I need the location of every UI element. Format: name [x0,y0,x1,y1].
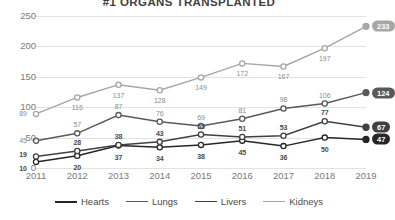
x-axis-tick-label: 2017 [273,170,294,181]
x-axis-tick-label: 2015 [190,170,211,181]
x-axis-tick-label: 2016 [232,170,253,181]
data-point-label: 51 [238,125,246,132]
y-axis-tick-label: 150 [6,71,36,82]
data-point-label: 76 [156,110,164,117]
data-point-label: 45 [238,149,246,156]
y-axis-tick-label: 250 [6,10,36,21]
data-point-label: 69 [197,114,205,121]
legend-swatch-lungs [126,201,148,202]
legend-item-hearts[interactable]: Hearts [55,196,109,207]
legend-item-livers[interactable]: Livers [195,196,246,207]
series-lines [36,16,366,168]
data-point-label: 116 [72,104,83,111]
chart-title: #1 ORGANS TRANSPLANTED [0,0,378,8]
data-point-label: 81 [238,107,246,114]
data-point [75,131,80,136]
data-point [363,124,369,130]
legend-swatch-livers [195,201,217,202]
data-point-label: 172 [237,70,248,77]
legend-swatch-kidneys [263,201,285,202]
legend-label: Lungs [152,196,178,207]
data-point [157,119,162,124]
data-point-label: 28 [73,139,81,146]
data-point [322,46,327,51]
x-axis-tick-label: 2018 [314,170,335,181]
y-axis-tick-label: 200 [6,40,36,51]
data-point-label: 57 [73,121,81,128]
data-point-label: 167 [278,73,289,80]
data-point-label: 87 [115,103,123,110]
data-point-label: 36 [280,154,288,161]
data-point [363,23,369,29]
data-point [322,135,327,140]
data-point [157,139,162,144]
end-value-badge-livers: 67 [372,122,390,133]
x-axis-tick-label: 2019 [355,170,376,181]
data-point-label: 38 [197,153,205,160]
data-point-label: 43 [156,130,164,137]
y-axis-tick-label: 100 [6,101,36,112]
data-point-label: 149 [195,84,206,91]
series-line-kidneys [36,26,366,114]
data-point-label: 38 [115,133,123,140]
data-point-label: 77 [321,109,329,116]
legend-label: Hearts [81,196,109,207]
data-point [240,61,245,66]
legend-label: Kidneys [289,196,323,207]
data-point-label: 53 [280,124,288,131]
data-point [198,132,203,137]
data-point [33,154,38,159]
data-point [75,148,80,153]
data-point-label: 55 [197,123,205,130]
data-point [116,113,121,118]
legend-item-kidneys[interactable]: Kidneys [263,196,323,207]
end-value-badge-lungs: 124 [372,87,395,98]
data-point-label: 98 [280,96,288,103]
x-axis-tick-label: 2012 [67,170,88,181]
data-point [157,145,162,150]
data-point [281,106,286,111]
data-point-label: 128 [154,97,165,104]
end-value-badge-kidneys: 233 [372,21,395,32]
data-point [157,88,162,93]
x-axis: 201120122013201420152016201720182019 [36,170,366,186]
data-point [281,64,286,69]
data-point [322,101,327,106]
data-point [322,119,327,124]
gridline [36,168,366,169]
data-point [116,142,121,147]
legend-label: Livers [221,196,246,207]
data-point-label: 37 [115,154,123,161]
data-point-label: 19 [19,151,27,158]
x-axis-tick-label: 2011 [26,170,46,181]
y-axis-tick-label: 50 [6,132,36,143]
data-point [281,144,286,149]
data-point [198,75,203,80]
end-value-badge-hearts: 47 [372,134,390,145]
data-point-label: 137 [113,92,124,99]
chart-legend: HeartsLungsLiversKidneys [0,196,378,207]
data-point [240,116,245,121]
data-point-label: 34 [156,155,164,162]
x-axis-tick-label: 2013 [108,170,129,181]
data-point [198,142,203,147]
plot-area: 1020373438453650455787766981981061928384… [36,16,366,168]
legend-swatch-hearts [55,201,77,203]
data-point [240,134,245,139]
data-point-label: 106 [319,92,330,99]
data-point [75,95,80,100]
data-point [363,136,369,142]
data-point-label: 197 [319,55,330,62]
data-point [116,82,121,87]
data-point [281,133,286,138]
legend-item-lungs[interactable]: Lungs [126,196,178,207]
x-axis-tick-label: 2014 [149,170,170,181]
data-point [363,90,369,96]
data-point-label: 50 [321,146,329,153]
